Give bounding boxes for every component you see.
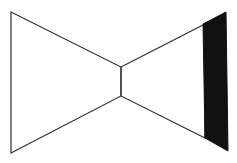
left-trapezoid bbox=[11, 12, 121, 153]
dark-panel bbox=[203, 12, 228, 151]
right-trapezoid bbox=[121, 24, 205, 138]
bowtie-diagram bbox=[0, 0, 237, 163]
